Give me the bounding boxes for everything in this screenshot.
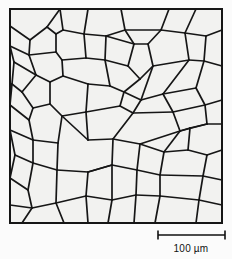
grain-boundary-edge — [189, 60, 204, 61]
grain-boundary-edge — [62, 60, 63, 76]
grain-boundary-edge — [136, 170, 137, 195]
grain-boundary-edge — [29, 40, 30, 55]
scale-bar-label: 100 µm — [174, 243, 209, 254]
figure-frame — [10, 9, 222, 223]
grain-boundary-edge — [112, 139, 113, 165]
figure-page: 100 µm — [0, 0, 232, 259]
grain-boundary-edge — [88, 139, 113, 140]
grain-boundary-edge — [133, 112, 173, 113]
grain-structure-figure: 100 µm — [0, 0, 232, 259]
grain-boundary-edge — [160, 175, 203, 176]
grain-boundary-edge — [56, 170, 57, 203]
grain-boundary-edge — [105, 36, 106, 60]
grain-boundary-edge — [57, 143, 58, 170]
scale-bar: 100 µm — [158, 231, 225, 255]
grain-boundary-edge — [136, 195, 160, 196]
